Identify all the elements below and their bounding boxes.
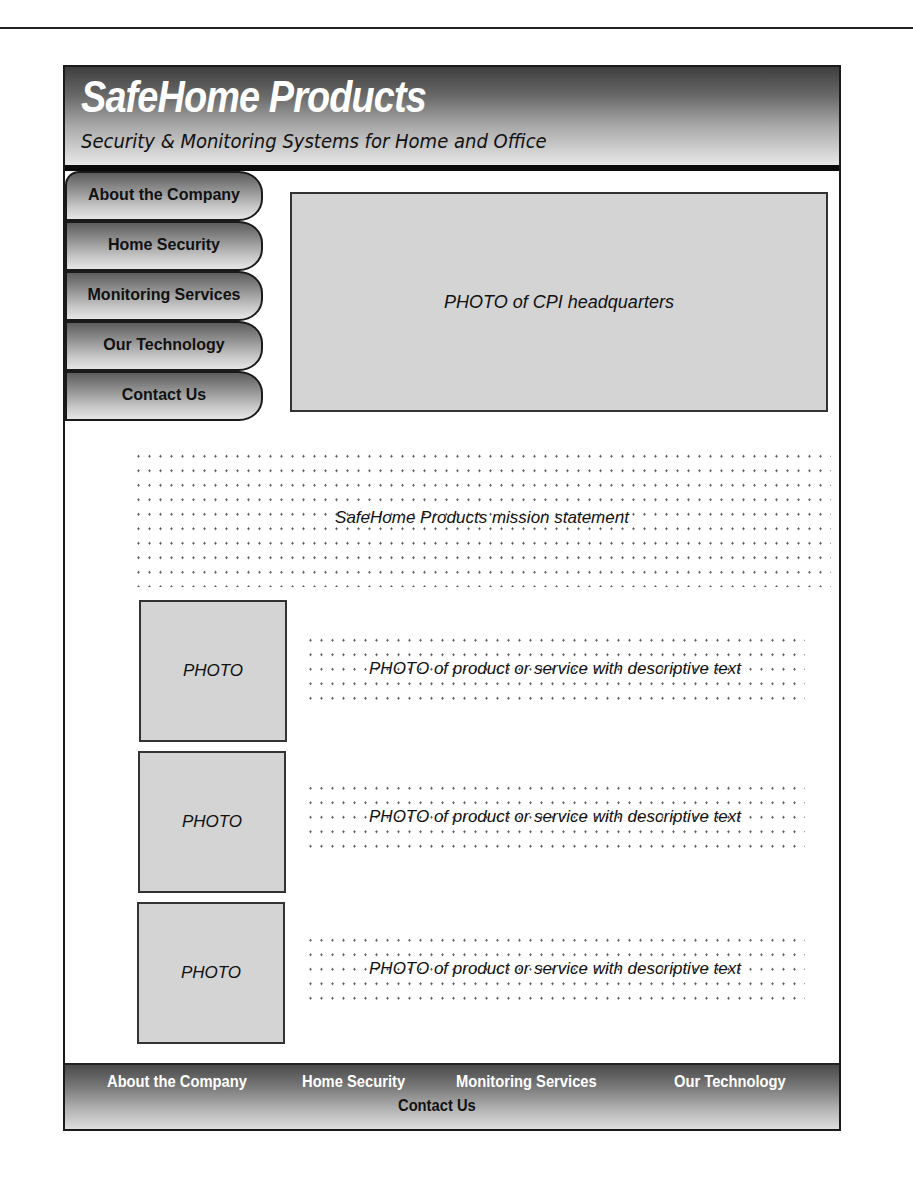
product-photo-label: PHOTO bbox=[181, 963, 241, 983]
footer-link-about[interactable]: About the Company bbox=[107, 1073, 247, 1091]
product-photo-label: PHOTO bbox=[182, 812, 242, 832]
site-tagline: Security & Monitoring Systems for Home a… bbox=[81, 129, 547, 153]
page-wireframe: SafeHome Products Security & Monitoring … bbox=[63, 65, 841, 1131]
product-description-label: PHOTO of product or service with descrip… bbox=[367, 807, 743, 827]
product-photo-2: PHOTO bbox=[138, 751, 286, 893]
mission-statement-label: SafeHome Products mission statement bbox=[333, 508, 631, 528]
sidebar-item-our-technology[interactable]: Our Technology bbox=[65, 321, 263, 371]
product-photo-3: PHOTO bbox=[137, 902, 285, 1044]
mission-statement-block: SafeHome Products mission statement bbox=[133, 449, 831, 587]
top-divider-line bbox=[0, 27, 913, 29]
product-description-2: PHOTO of product or service with descrip… bbox=[305, 781, 805, 853]
sidebar-item-contact-us[interactable]: Contact Us bbox=[65, 371, 263, 421]
sidebar-item-monitoring-services[interactable]: Monitoring Services bbox=[65, 271, 263, 321]
product-description-label: PHOTO of product or service with descrip… bbox=[367, 959, 743, 979]
site-footer: About the Company Home Security Monitori… bbox=[65, 1063, 839, 1129]
site-logo[interactable]: SafeHome Products bbox=[81, 75, 426, 119]
footer-link-monitoring-services[interactable]: Monitoring Services bbox=[456, 1073, 597, 1091]
footer-link-contact-us[interactable]: Contact Us bbox=[398, 1097, 476, 1115]
product-description-1: PHOTO of product or service with descrip… bbox=[305, 633, 805, 705]
product-photo-1: PHOTO bbox=[139, 600, 287, 742]
sidebar-item-about[interactable]: About the Company bbox=[65, 171, 263, 221]
hero-photo-label: PHOTO of CPI headquarters bbox=[444, 292, 674, 313]
sidebar-nav: About the Company Home Security Monitori… bbox=[65, 171, 265, 421]
product-description-3: PHOTO of product or service with descrip… bbox=[305, 933, 805, 1005]
hero-photo-placeholder: PHOTO of CPI headquarters bbox=[290, 192, 828, 412]
product-description-label: PHOTO of product or service with descrip… bbox=[367, 659, 743, 679]
sidebar-item-home-security[interactable]: Home Security bbox=[65, 221, 263, 271]
site-header: SafeHome Products Security & Monitoring … bbox=[65, 67, 839, 171]
product-photo-label: PHOTO bbox=[183, 661, 243, 681]
footer-link-home-security[interactable]: Home Security bbox=[302, 1073, 405, 1091]
footer-link-our-technology[interactable]: Our Technology bbox=[674, 1073, 786, 1091]
